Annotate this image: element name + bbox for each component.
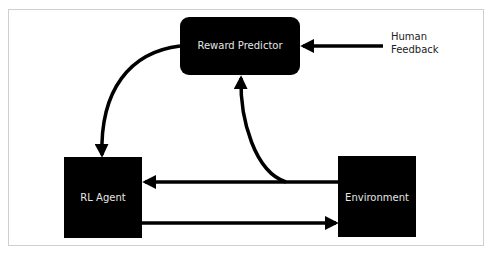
environment-label: Environment (345, 192, 409, 203)
arrow-reward-predictor-to-rl-agent (102, 46, 180, 155)
human-feedback-line1: Human (391, 31, 427, 42)
human-feedback-line2: Feedback (391, 44, 439, 55)
node-reward-predictor: Reward Predictor (180, 17, 300, 75)
rl-agent-label: RL Agent (80, 192, 125, 203)
human-feedback-label: Human Feedback (391, 31, 439, 55)
arrow-environment-to-reward-predictor (241, 78, 286, 182)
node-environment: Environment (338, 156, 416, 237)
reward-predictor-label: Reward Predictor (197, 40, 283, 51)
node-rl-agent: RL Agent (64, 157, 142, 238)
diagram-canvas: Reward Predictor RL Agent Environment Hu… (0, 0, 493, 255)
